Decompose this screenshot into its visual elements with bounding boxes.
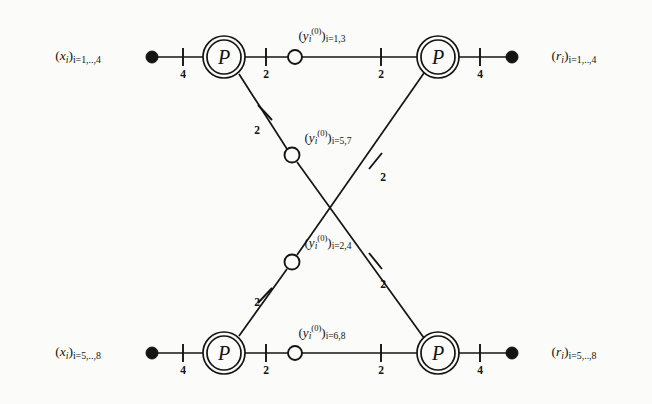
edge-diagonal-bottomleft-upper	[297, 73, 424, 255]
terminal-in-top	[146, 51, 158, 63]
edge-weight-output-top: 4	[477, 69, 483, 81]
input-label-bottom-range: i=5,..,8	[73, 350, 101, 361]
processor-label-top-right: P	[432, 47, 444, 67]
buffer-label-lower-mid: (yi(0))i=2,4	[305, 234, 352, 251]
input-label-bottom: (xi)i=5,..,8	[55, 345, 101, 361]
processor-label-bottom-right: P	[432, 343, 444, 363]
output-label-bottom: (ri)i=5,..,8	[552, 345, 597, 361]
buffer-label-bottom-range: i=6,8	[326, 331, 346, 341]
buffer-label-lower-mid-sup: (0)	[317, 233, 327, 243]
buffer-node-bottom	[288, 346, 302, 360]
output-label-top: (ri)i=1,..,4	[552, 49, 597, 65]
output-label-bottom-range: i=5,..,8	[569, 350, 597, 361]
processor-label-bottom-left: P	[218, 343, 230, 363]
edge-weight-input-top: 4	[180, 69, 186, 81]
edge-weight-bottom-right-in: 2	[378, 365, 384, 377]
edge-weight-top-right-in: 2	[378, 69, 384, 81]
tick-diagonal-bottomright	[369, 253, 382, 269]
edge-weight-diagonal-topleft: 2	[254, 125, 260, 137]
tick-diagonal-topleft	[258, 105, 272, 120]
edge-weight-diagonal-bottomright: 2	[380, 279, 386, 291]
buffer-node-lower-mid	[285, 255, 300, 270]
buffer-label-upper-mid-range: i=5,7	[332, 136, 352, 146]
edge-diagonal-bottomleft-lower	[239, 269, 287, 336]
edge-weight-input-bottom: 4	[180, 365, 186, 377]
processor-label-top-left: P	[218, 47, 230, 67]
buffer-label-top-range: i=1,3	[326, 34, 346, 44]
terminal-out-top	[506, 51, 518, 63]
edge-weight-diagonal-topright: 2	[380, 172, 386, 184]
buffer-label-bottom-sup: (0)	[311, 323, 321, 333]
output-label-top-range: i=1,..,4	[569, 54, 597, 65]
edge-weight-bottom-left-out: 2	[263, 365, 269, 377]
terminal-out-bottom	[506, 347, 518, 359]
buffer-label-upper-mid-sup: (0)	[317, 128, 327, 138]
tick-diagonal-topright	[369, 153, 382, 169]
edge-weight-top-left-out: 2	[263, 69, 269, 81]
buffer-node-upper-mid	[285, 148, 300, 163]
edge-weight-output-bottom: 4	[477, 365, 483, 377]
terminal-in-bottom	[146, 347, 158, 359]
buffer-label-top-sup: (0)	[311, 26, 321, 36]
edge-weight-diagonal-bottomleft: 2	[254, 297, 260, 309]
buffer-label-bottom: (yi(0))i=6,8	[299, 324, 346, 341]
buffer-label-upper-mid: (yi(0))i=5,7	[305, 129, 352, 146]
figure-canvas: P P P P 4 2 2 4 2 2 2 2 4 2 2 4 (xi)i=1,…	[0, 0, 652, 404]
buffer-label-lower-mid-range: i=2,4	[332, 241, 352, 251]
buffer-label-top: (yi(0))i=1,3	[299, 27, 346, 44]
buffer-node-top	[288, 50, 302, 64]
input-label-top-range: i=1,..,4	[73, 54, 101, 65]
input-label-top: (xi)i=1,..,4	[55, 49, 101, 65]
